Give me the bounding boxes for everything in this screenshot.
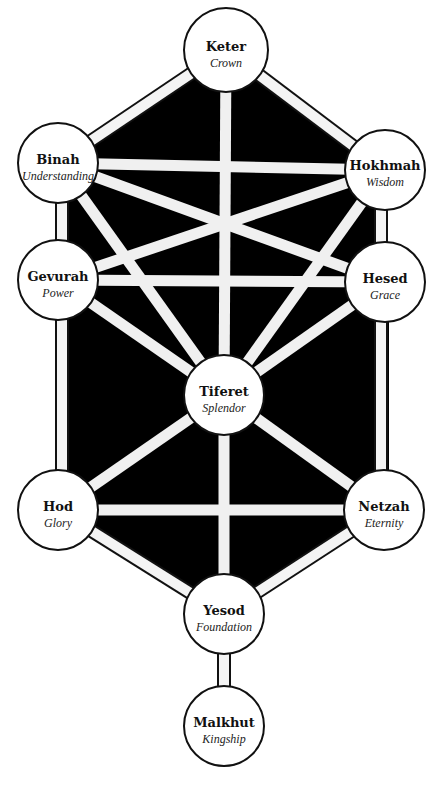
node-hod: Hod Glory — [18, 470, 98, 550]
node-meaning: Eternity — [364, 516, 404, 530]
node-name: Keter — [206, 39, 247, 54]
node-netzah: Netzah Eternity — [344, 470, 424, 550]
node-tiferet: Tiferet Splendor — [184, 355, 264, 435]
node-name: Hokhmah — [349, 158, 421, 173]
node-meaning: Understanding — [22, 169, 94, 183]
node-keter: Keter Crown — [184, 8, 268, 92]
node-meaning: Foundation — [195, 620, 252, 634]
node-meaning: Splendor — [202, 401, 246, 415]
node-name: Gevurah — [27, 269, 89, 284]
node-meaning: Power — [41, 286, 74, 300]
node-meaning: Glory — [44, 516, 73, 530]
node-binah: Binah Understanding — [18, 123, 98, 203]
node-name: Binah — [36, 152, 80, 167]
node-name: Netzah — [358, 499, 410, 514]
node-meaning: Kingship — [201, 732, 245, 746]
node-gevurah: Gevurah Power — [18, 240, 98, 320]
node-meaning: Grace — [370, 288, 401, 302]
node-meaning: Wisdom — [366, 175, 404, 189]
node-hokhmah: Hokhmah Wisdom — [345, 130, 425, 210]
node-yesod: Yesod Foundation — [184, 574, 264, 654]
node-name: Hesed — [362, 271, 407, 286]
node-hesed: Hesed Grace — [345, 242, 425, 322]
node-name: Tiferet — [199, 384, 249, 399]
node-name: Malkhut — [193, 715, 255, 730]
node-meaning: Crown — [210, 56, 242, 70]
node-malkhut: Malkhut Kingship — [184, 686, 264, 766]
node-name: Yesod — [202, 603, 245, 618]
tree-of-life-diagram: Keter Crown Binah Understanding Hokhmah … — [0, 0, 442, 786]
node-name: Hod — [43, 499, 73, 514]
